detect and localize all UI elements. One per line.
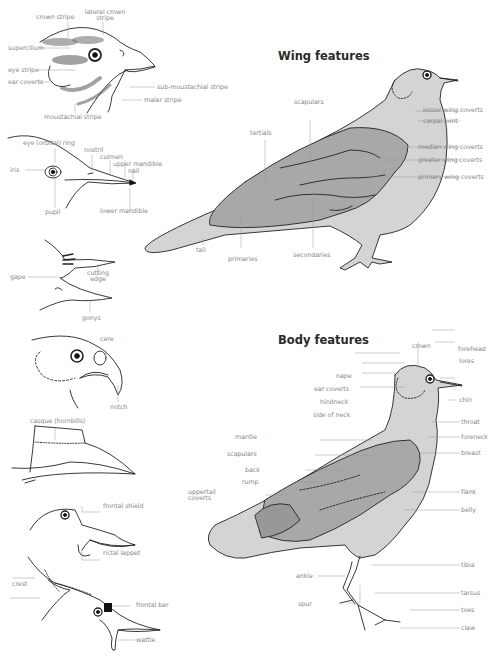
label-moustachial-stripe: moustachial stripe [44, 114, 101, 120]
label-lores: lores [459, 358, 474, 364]
label-pupil: pupil [45, 209, 60, 215]
label-gonys: gonys [82, 315, 101, 321]
label-tarsus: tarsus [461, 590, 480, 596]
label-primary-wing-coverts: primary wing coverts [418, 174, 484, 180]
label-median-wing-coverts: median wing coverts [418, 144, 483, 150]
label-eye-orbital-ring: eye (orbital) ring [23, 140, 75, 146]
body-features-title: Body features [278, 333, 369, 347]
label-rictal-lappet: rictal lappet [103, 550, 140, 556]
label-toes: toes [461, 607, 474, 613]
label-uppertail-coverts: uppertail coverts [188, 489, 228, 502]
label-hindneck: hindneck [320, 399, 348, 405]
label-nail: nail [128, 168, 139, 174]
label-frontal-shield: frontal shield [103, 503, 143, 509]
label-gape: gape [10, 274, 26, 280]
label-greater-wing-coverts: greater wing coverts [418, 157, 482, 163]
label-ankle: ankle [296, 573, 313, 579]
label-crest: crest [12, 581, 27, 587]
label-body-ear-coverts: ear coverts [314, 386, 349, 392]
label-eye-stripe: eye stripe [8, 67, 39, 73]
label-back: back [245, 467, 260, 473]
label-iris: iris [10, 167, 19, 173]
label-sub-moustachial-stripe: sub-moustachial stripe [157, 84, 228, 90]
label-crown-stripe: crown stripe [36, 14, 74, 20]
label-chin: chin [459, 397, 472, 403]
label-ear-coverts: ear coverts [8, 79, 43, 85]
bird-anatomy-drawing [0, 0, 498, 662]
label-notch: notch [110, 404, 128, 410]
label-tertials: tertials [250, 130, 272, 136]
label-foreneck: foreneck [461, 434, 488, 440]
label-wing-scapulars: scapulars [294, 99, 324, 105]
label-primaries: primaries [228, 256, 257, 262]
label-carpal-joint: carpal joint [423, 118, 458, 124]
raptor-head-drawing [32, 336, 122, 408]
label-frontal-bar: frontal bar [136, 602, 168, 608]
label-wattle: wattle [136, 637, 155, 643]
label-tail: tail [196, 247, 206, 253]
label-flank: flank [461, 489, 476, 495]
label-cutting-edge: cutting edge [84, 270, 112, 283]
label-malar-stripe: malar stripe [144, 97, 182, 103]
label-spur: spur [298, 601, 312, 607]
label-rump: rump [242, 479, 259, 485]
label-crown: crown [412, 343, 431, 349]
label-casque: casque (hornbills) [30, 418, 85, 424]
label-tibia: tibia [461, 562, 475, 568]
label-lateral-crown-stripe: lateral crown stripe [84, 9, 126, 22]
label-side-of-neck: side of neck [313, 412, 350, 418]
label-body-scapulars: scapulars [227, 451, 257, 457]
label-breast: breast [461, 450, 481, 456]
label-supercilium: supercilium [8, 45, 44, 51]
label-lesser-wing-coverts: lesser wing coverts [423, 107, 483, 113]
label-mantle: mantle [235, 434, 257, 440]
wing-features-title: Wing features [278, 49, 370, 63]
label-forehead: forehead [458, 346, 486, 352]
hornbill-bill-drawing [12, 426, 135, 483]
label-cere: cere [100, 336, 113, 342]
label-claw: claw [461, 625, 475, 631]
label-secondaries: secondaries [293, 252, 330, 258]
label-nape: nape [336, 373, 352, 379]
label-lower-mandible: lower mandible [100, 208, 148, 214]
label-throat: throat [461, 419, 480, 425]
label-belly: belly [461, 507, 476, 513]
